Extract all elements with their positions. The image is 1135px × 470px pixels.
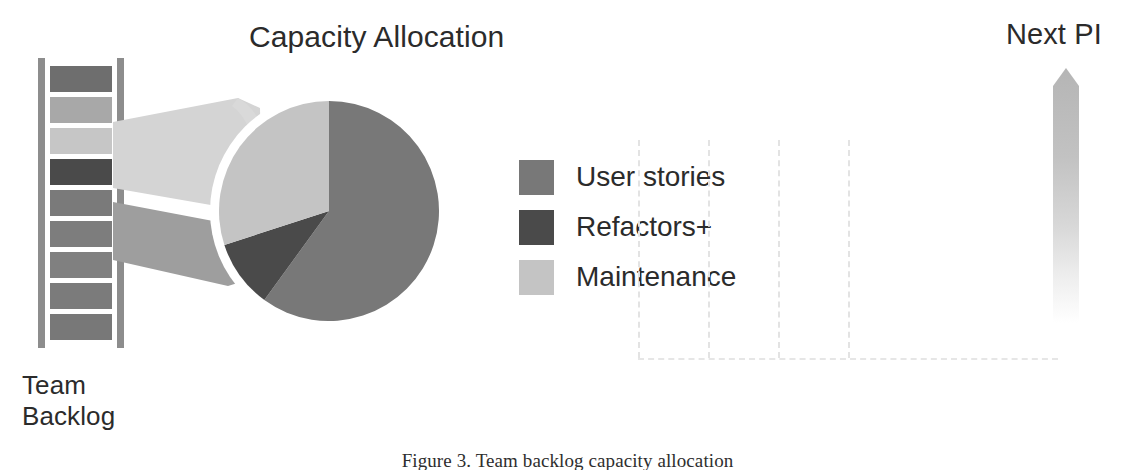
- grid-vline: [778, 140, 780, 358]
- next-pi-arrow-icon: [1046, 68, 1086, 323]
- backlog-item: [50, 283, 112, 309]
- backlog-item: [50, 159, 112, 185]
- capacity-allocation-pie: [219, 101, 439, 321]
- backlog-item: [50, 190, 112, 216]
- backlog-item: [50, 252, 112, 278]
- pie-slices: [219, 101, 439, 321]
- grid-vline: [638, 140, 640, 358]
- backlog-item: [50, 97, 112, 123]
- figure-caption: Figure 3. Team backlog capacity allocati…: [0, 450, 1135, 470]
- background-dashed-grid: [630, 140, 1060, 365]
- next-pi-label: Next PI: [1006, 18, 1102, 51]
- backlog-item: [50, 314, 112, 340]
- backlog-item: [50, 221, 112, 247]
- figure-canvas: Capacity Allocation Team Backlog User st…: [0, 0, 1135, 470]
- backlog-item: [50, 66, 112, 92]
- page-title: Capacity Allocation: [249, 20, 504, 54]
- legend-swatch: [519, 260, 554, 295]
- grid-baseline: [638, 358, 1058, 360]
- backlog-rail-left: [38, 58, 45, 348]
- grid-vline: [708, 140, 710, 358]
- team-backlog-label: Team Backlog: [22, 370, 152, 432]
- legend-swatch: [519, 160, 554, 195]
- grid-vline: [848, 140, 850, 358]
- backlog-item-list: [50, 66, 112, 344]
- backlog-item: [50, 128, 112, 154]
- legend-swatch: [519, 210, 554, 245]
